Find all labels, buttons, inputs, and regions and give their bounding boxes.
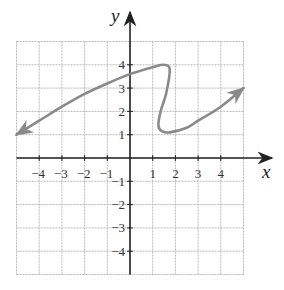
axes bbox=[17, 12, 273, 275]
x-tick-label: −2 bbox=[77, 166, 91, 181]
graph-plot: −4−3−2−112344321−1−2−3−4 x y bbox=[0, 0, 284, 290]
y-tick-label: −3 bbox=[111, 220, 125, 235]
y-tick-label: 1 bbox=[119, 127, 126, 142]
y-tick-label: 2 bbox=[119, 104, 126, 119]
x-tick-label: 2 bbox=[172, 166, 179, 181]
x-tick-label: −3 bbox=[54, 166, 68, 181]
x-tick-label: 3 bbox=[195, 166, 202, 181]
y-tick-label: 4 bbox=[119, 57, 126, 72]
x-axis-label: x bbox=[261, 161, 271, 182]
x-tick-label: 4 bbox=[218, 166, 225, 181]
y-tick-label: −1 bbox=[111, 174, 125, 189]
y-tick-label: 3 bbox=[119, 81, 126, 96]
y-tick-label: −2 bbox=[111, 197, 125, 212]
y-tick-label: −4 bbox=[111, 244, 125, 259]
x-tick-label: 1 bbox=[149, 166, 156, 181]
y-axis-label: y bbox=[109, 5, 120, 26]
x-tick-label: −4 bbox=[31, 166, 45, 181]
